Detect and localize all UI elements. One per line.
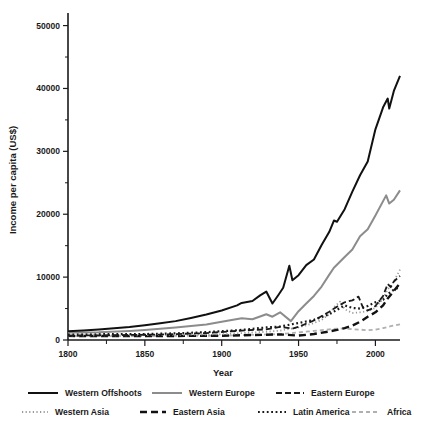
- y-tick-label: 50000: [36, 21, 60, 31]
- x-tick-label: 1950: [289, 349, 308, 359]
- y-tick-label: 30000: [36, 146, 60, 156]
- y-axis: 01000020000300004000050000: [36, 13, 68, 345]
- y-tick-label: 20000: [36, 209, 60, 219]
- legend-label-western-offshoots: Western Offshoots: [65, 388, 142, 398]
- legend-label-eastern-europe: Eastern Europe: [311, 388, 375, 398]
- y-tick-label: 0: [55, 335, 60, 345]
- legend-label-western-asia: Western Asia: [55, 407, 109, 417]
- x-tick-label: 2000: [366, 349, 385, 359]
- x-tick-label: 1900: [212, 349, 231, 359]
- series-line-western-offshoots: [68, 76, 400, 331]
- series-line-western-asia: [68, 270, 400, 336]
- legend: Western OffshootsWestern EuropeEastern E…: [22, 388, 412, 417]
- legend-label-latin-america: Latin America: [293, 407, 350, 417]
- y-tick-label: 40000: [36, 83, 60, 93]
- x-axis-title: Year: [213, 367, 233, 378]
- legend-item-western-offshoots[interactable]: Western Offshoots: [28, 388, 142, 398]
- legend-item-western-europe[interactable]: Western Europe: [152, 388, 255, 398]
- legend-item-latin-america[interactable]: Latin America: [258, 407, 350, 417]
- legend-item-africa[interactable]: Africa: [352, 407, 412, 417]
- legend-item-western-asia[interactable]: Western Asia: [22, 407, 109, 417]
- x-tick-label: 1850: [135, 349, 154, 359]
- income-per-capita-chart: 01000020000300004000050000 1800185019001…: [0, 0, 426, 442]
- legend-label-africa: Africa: [387, 407, 412, 417]
- legend-label-western-europe: Western Europe: [189, 388, 255, 398]
- chart-canvas: 01000020000300004000050000 1800185019001…: [0, 0, 426, 442]
- legend-item-eastern-europe[interactable]: Eastern Europe: [276, 388, 375, 398]
- y-axis-title: Income per capita (US$): [7, 126, 18, 234]
- legend-label-eastern-asia: Eastern Asia: [173, 407, 225, 417]
- x-axis: 18001850190019502000: [59, 340, 400, 359]
- legend-item-eastern-asia[interactable]: Eastern Asia: [140, 407, 225, 417]
- y-tick-label: 10000: [36, 272, 60, 282]
- x-tick-label: 1800: [59, 349, 78, 359]
- series-layer: [68, 76, 400, 336]
